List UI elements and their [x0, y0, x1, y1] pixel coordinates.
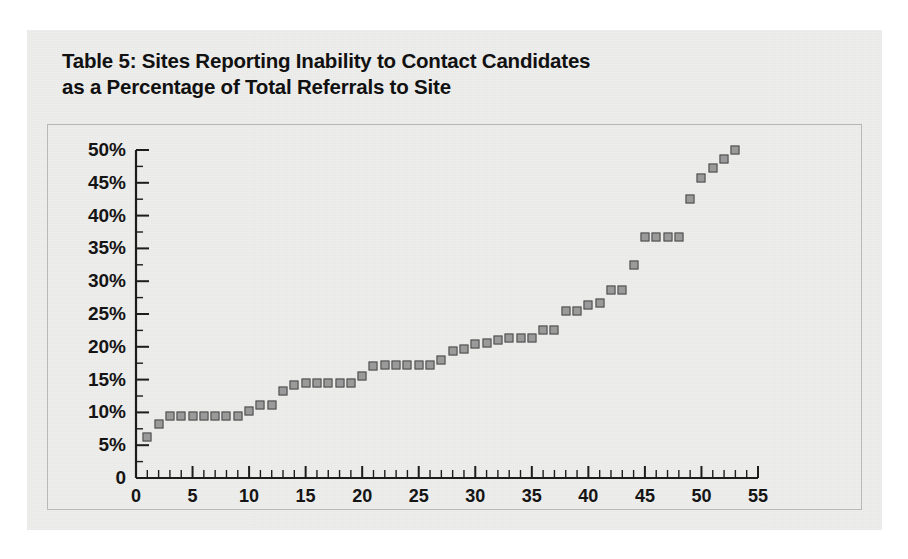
y-axis-tick-label: 35% [60, 237, 126, 259]
data-point-marker [199, 411, 208, 420]
data-point-marker [403, 361, 412, 370]
data-point-marker [505, 334, 514, 343]
y-axis-tick-label: 10% [60, 401, 126, 423]
data-point-marker [301, 378, 310, 387]
data-point-marker [595, 298, 604, 307]
data-point-marker [527, 333, 536, 342]
data-point-marker [211, 411, 220, 420]
y-axis-tick-label: 50% [60, 139, 126, 161]
data-point-marker [720, 155, 729, 164]
data-point-marker [233, 411, 242, 420]
data-point-marker [618, 285, 627, 294]
data-point-marker [154, 419, 163, 428]
data-point-marker [369, 362, 378, 371]
y-axis-tick-label: 0 [60, 467, 126, 489]
data-point-marker [606, 286, 615, 295]
x-axis-tick-label: 5 [188, 486, 198, 507]
data-point-marker [165, 411, 174, 420]
data-point-marker [279, 386, 288, 395]
data-point-marker [380, 361, 389, 370]
data-point-marker [573, 306, 582, 315]
x-axis-tick-label: 20 [352, 486, 372, 507]
data-point-marker [312, 378, 321, 387]
data-point-marker [629, 260, 638, 269]
data-point-marker [324, 378, 333, 387]
data-point-marker [267, 400, 276, 409]
data-point-marker [448, 347, 457, 356]
data-point-marker [550, 325, 559, 334]
data-point-marker [516, 334, 525, 343]
x-axis-tick-label: 55 [748, 486, 768, 507]
chart-page: Table 5: Sites Reporting Inability to Co… [0, 0, 908, 559]
data-point-marker [652, 233, 661, 242]
data-point-marker [245, 407, 254, 416]
x-axis-tick-label: 30 [465, 486, 485, 507]
data-point-marker [177, 411, 186, 420]
data-point-marker [414, 361, 423, 370]
data-point-marker [346, 378, 355, 387]
data-point-marker [663, 233, 672, 242]
plot-frame-border [47, 124, 862, 510]
data-point-marker [188, 411, 197, 420]
data-point-marker [335, 378, 344, 387]
x-axis-tick-label: 25 [409, 486, 429, 507]
data-point-marker [222, 411, 231, 420]
data-point-marker [256, 400, 265, 409]
x-axis-tick-label: 10 [239, 486, 259, 507]
chart-title: Table 5: Sites Reporting Inability to Co… [62, 48, 862, 100]
y-axis-tick-label: 20% [60, 336, 126, 358]
y-axis-tick-label: 45% [60, 172, 126, 194]
y-axis-tick-label: 25% [60, 303, 126, 325]
data-point-marker [539, 326, 548, 335]
data-point-marker [584, 300, 593, 309]
data-point-marker [482, 338, 491, 347]
data-point-marker [459, 344, 468, 353]
data-point-marker [290, 380, 299, 389]
x-axis-tick-label: 45 [635, 486, 655, 507]
data-point-marker [358, 372, 367, 381]
x-axis-tick-label: 15 [296, 486, 316, 507]
y-axis-tick-label: 30% [60, 270, 126, 292]
data-point-marker [697, 174, 706, 183]
data-point-marker [426, 360, 435, 369]
y-axis-tick-label: 15% [60, 369, 126, 391]
data-point-marker [640, 233, 649, 242]
data-point-marker [392, 361, 401, 370]
x-axis-tick-label: 40 [578, 486, 598, 507]
data-point-marker [674, 233, 683, 242]
data-point-marker [437, 355, 446, 364]
x-axis-tick-label: 0 [131, 486, 141, 507]
data-point-marker [471, 339, 480, 348]
data-point-marker [143, 432, 152, 441]
data-point-marker [493, 335, 502, 344]
data-point-marker [686, 195, 695, 204]
y-axis-tick-label: 40% [60, 205, 126, 227]
y-axis-tick-label: 5% [60, 434, 126, 456]
data-point-marker [731, 146, 740, 155]
data-point-marker [561, 307, 570, 316]
x-axis-tick-label: 50 [691, 486, 711, 507]
x-axis-tick-label: 35 [522, 486, 542, 507]
data-point-marker [708, 164, 717, 173]
